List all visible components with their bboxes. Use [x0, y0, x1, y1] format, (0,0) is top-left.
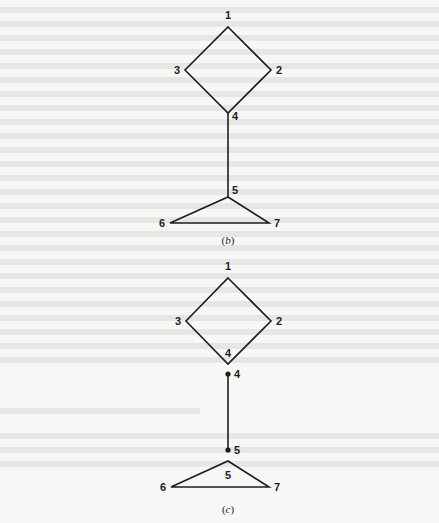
vertex-label-4: 4 — [232, 110, 239, 122]
caption-c: (c) — [222, 503, 235, 516]
vertex-label-5: 5 — [232, 184, 238, 196]
cut-vertex-5-dot — [225, 447, 230, 452]
vertex-label-3: 3 — [175, 315, 181, 327]
panel-c: 1 2 3 4 4 5 5 6 7 (c) — [160, 260, 282, 516]
cut-vertex-label-4: 4 — [234, 368, 241, 380]
triangle-block-b — [170, 197, 269, 223]
vertex-label-2: 2 — [276, 64, 282, 76]
vertex-label-6: 6 — [160, 481, 166, 493]
diamond-block-b — [185, 27, 271, 113]
vertex-label-4-inner: 4 — [225, 347, 232, 359]
vertex-label-5-inner: 5 — [225, 469, 231, 481]
caption-b: (b) — [222, 234, 235, 247]
vertex-label-6: 6 — [159, 217, 165, 229]
cut-vertex-4-dot — [225, 371, 230, 376]
vertex-label-3: 3 — [174, 64, 180, 76]
graph-figure: 1 2 3 4 5 6 7 (b) 1 2 3 4 4 5 5 6 7 (c) — [0, 0, 439, 523]
vertex-label-7: 7 — [274, 481, 280, 493]
triangle-block-c — [171, 461, 269, 487]
cut-vertex-label-5: 5 — [234, 444, 240, 456]
vertex-label-2: 2 — [276, 315, 282, 327]
vertex-label-1: 1 — [225, 9, 231, 21]
panel-b: 1 2 3 4 5 6 7 (b) — [159, 9, 282, 247]
vertex-label-7: 7 — [274, 217, 280, 229]
vertex-label-1: 1 — [225, 260, 231, 272]
